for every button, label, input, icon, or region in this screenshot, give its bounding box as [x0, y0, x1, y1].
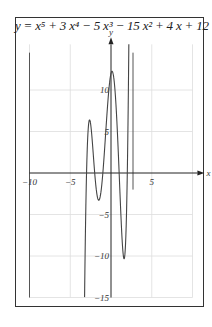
plot-area: −10−55105−5−10−15xy	[0, 0, 212, 327]
x-axis-arrow-icon	[197, 171, 204, 176]
y-axis-arrow-icon	[109, 37, 114, 44]
y-tick-label: −5	[98, 210, 109, 220]
tick-labels: −10−55105−5−10−15xy	[22, 27, 210, 302]
y-axis-label: y	[108, 27, 113, 37]
x-tick-label: −10	[22, 177, 38, 187]
axes	[30, 37, 205, 297]
x-tick-label: 5	[150, 177, 155, 187]
y-tick-label: −15	[94, 293, 110, 303]
x-axis-label: x	[205, 168, 210, 178]
y-tick-label: −10	[94, 251, 110, 261]
x-tick-label: −5	[65, 177, 76, 187]
